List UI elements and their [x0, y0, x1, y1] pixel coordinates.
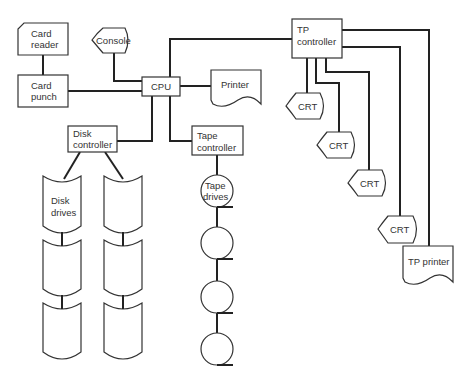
tp-printer-label: TP printer	[408, 256, 450, 267]
disk-controller-label-2: controller	[73, 139, 112, 150]
tape-controller-label-1: Tape	[197, 130, 218, 141]
crt-label: CRT	[329, 140, 349, 151]
crt-terminal-3: CRT	[348, 170, 386, 196]
crt-label: CRT	[390, 224, 410, 235]
card-reader-node: Card reader	[18, 23, 68, 55]
computer-system-diagram: Card reader Card punch Console CPU Print…	[0, 0, 471, 381]
edge-disk-controller-col1	[64, 152, 80, 179]
tape-drive-icon	[201, 333, 233, 365]
tape-controller-label-2: controller	[197, 142, 236, 153]
printer-label: Printer	[221, 79, 249, 90]
tp-controller-node: TP controller	[292, 19, 342, 58]
disk-drives-label-1: Disk	[51, 195, 70, 206]
edge-disk-controller-col2	[105, 152, 123, 179]
disk-drive-icon	[104, 176, 142, 233]
printer-node: Printer	[211, 70, 261, 106]
disk-drive-icon	[104, 240, 142, 296]
crt-label: CRT	[360, 178, 380, 189]
crt-terminal-1: CRT	[286, 93, 324, 119]
card-punch-node: Card punch	[18, 75, 68, 107]
tape-controller-node: Tape controller	[192, 126, 243, 155]
tape-drive-icon	[201, 227, 233, 259]
crt-label: CRT	[298, 101, 318, 112]
crt-terminal-4: CRT	[378, 216, 417, 243]
disk-drive-icon	[43, 240, 81, 296]
edge-cpu-tape-controller	[170, 96, 192, 141]
tp-printer-node: TP printer	[403, 246, 453, 284]
console-node: Console	[92, 28, 131, 53]
tape-drives-label-1: Tape	[205, 180, 226, 191]
tape-drive-icon	[201, 281, 233, 313]
disk-drive-icon	[104, 303, 142, 359]
disk-drives-group: Disk drives	[43, 176, 142, 359]
disk-controller-label-1: Disk	[73, 128, 92, 139]
card-punch-label-2: punch	[31, 91, 57, 102]
cpu-label: CPU	[151, 81, 171, 92]
disk-drive-icon	[43, 303, 81, 359]
tp-controller-label-2: controller	[297, 36, 336, 47]
card-reader-label-1: Card	[31, 28, 52, 39]
edge-cpu-disk-controller	[117, 96, 152, 141]
disk-drives-label-2: drives	[51, 207, 77, 218]
card-punch-label-1: Card	[31, 80, 52, 91]
cpu-node: CPU	[142, 77, 180, 96]
edge-console-cpu	[114, 53, 142, 81]
disk-controller-node: Disk controller	[68, 126, 117, 152]
console-label: Console	[96, 35, 131, 46]
crt-terminal-2: CRT	[317, 132, 355, 158]
card-reader-label-2: reader	[31, 39, 58, 50]
tp-controller-label-1: TP	[297, 24, 309, 35]
tape-drives-label-2: drives	[203, 191, 229, 202]
edge-tp-printer	[342, 30, 429, 246]
